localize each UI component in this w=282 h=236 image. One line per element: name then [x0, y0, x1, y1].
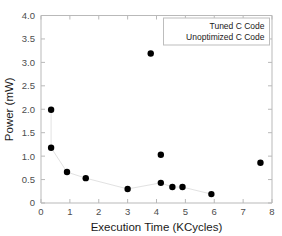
svg-text:3.5: 3.5 — [22, 33, 35, 44]
data-point — [158, 180, 164, 186]
clipped-header-text — [4, 0, 164, 3]
data-point — [83, 175, 89, 181]
legend-entry-label: Unoptimized C Code — [186, 32, 265, 42]
svg-text:4.0: 4.0 — [22, 10, 35, 21]
svg-text:1.0: 1.0 — [22, 151, 35, 162]
svg-text:0.5: 0.5 — [22, 174, 35, 185]
svg-text:7: 7 — [240, 206, 245, 217]
svg-text:0: 0 — [38, 206, 43, 217]
data-point — [48, 144, 54, 150]
svg-text:3.0: 3.0 — [22, 57, 35, 68]
data-points — [48, 50, 264, 197]
svg-text:8: 8 — [269, 206, 274, 217]
x-axis-ticks: 012345678 — [38, 16, 274, 217]
scatter-plot: 012345678 00.51.01.52.02.53.03.54.0 Exec… — [0, 0, 282, 236]
svg-text:1.5: 1.5 — [22, 127, 35, 138]
y-axis-title-group: Power (mW) — [3, 77, 15, 141]
svg-text:0: 0 — [30, 197, 35, 208]
data-point — [179, 184, 185, 190]
svg-text:4: 4 — [154, 206, 159, 217]
svg-text:5: 5 — [183, 206, 188, 217]
svg-text:6: 6 — [212, 206, 217, 217]
svg-text:1: 1 — [67, 206, 72, 217]
svg-text:2.5: 2.5 — [22, 80, 35, 91]
x-axis-title: Execution Time (KCycles) — [91, 221, 223, 233]
data-point — [158, 152, 164, 158]
legend-entry-label: Tuned C Code — [210, 21, 265, 31]
svg-text:2.0: 2.0 — [22, 104, 35, 115]
chart-figure: 012345678 00.51.01.52.02.53.03.54.0 Exec… — [0, 0, 282, 236]
data-point — [257, 159, 263, 165]
data-point — [124, 186, 130, 192]
svg-text:3: 3 — [125, 206, 130, 217]
data-point — [48, 107, 54, 113]
data-point — [208, 191, 214, 197]
data-point — [169, 184, 175, 190]
y-axis-title: Power (mW) — [3, 77, 15, 141]
svg-text:2: 2 — [96, 206, 101, 217]
chart-legend: Tuned C CodeUnoptimized C Code — [164, 18, 270, 45]
data-point — [148, 50, 154, 56]
series-connector-line — [51, 110, 211, 194]
data-point — [64, 169, 70, 175]
